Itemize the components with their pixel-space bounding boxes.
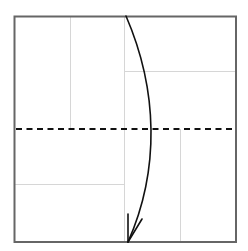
origami-diagram bbox=[0, 0, 248, 251]
